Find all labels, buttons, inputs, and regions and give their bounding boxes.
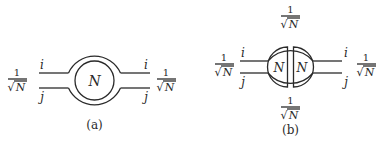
fraction-denominator: N	[288, 109, 299, 122]
sqrt-icon: √	[280, 109, 288, 122]
panel-b-right-index-i: i	[344, 46, 348, 60]
fraction-denominator: N	[222, 66, 233, 79]
fraction-numerator: 1	[163, 67, 169, 78]
sqrt-icon: √	[156, 81, 164, 94]
fraction-numerator: 1	[287, 4, 293, 15]
panel-a-left-index-i: i	[40, 58, 44, 72]
panel-a-caption: (a)	[86, 118, 103, 132]
sqrt-icon: √	[280, 18, 288, 31]
fraction-denominator: N	[15, 81, 26, 94]
panel-b-left-factor: 1 √ N	[214, 52, 234, 79]
panel-a-outer-loop	[69, 56, 121, 73]
fraction-numerator: 1	[287, 95, 293, 106]
panel-a-outer-loop-bottom	[69, 88, 121, 105]
panel-a-right-index-i: i	[144, 58, 148, 72]
panel-b-left-index-i: i	[241, 46, 245, 60]
fraction-numerator: 1	[221, 52, 227, 63]
sqrt-icon: √	[356, 66, 364, 79]
panel-b-top-factor: 1 √ N	[280, 4, 300, 31]
fraction-numerator: 1	[14, 67, 20, 78]
fraction-numerator: 1	[363, 52, 369, 63]
panel-a: N i j i j 1 √ N 1 √ N (a)	[7, 56, 176, 132]
panel-a-right-factor: 1 √ N	[156, 67, 176, 94]
panel-b: N N i j i j 1 √ N 1 √ N 1 √ N	[214, 4, 376, 137]
panel-a-left-index-j: j	[37, 90, 44, 104]
sqrt-icon: √	[7, 81, 15, 94]
panel-b-left-half-label: N	[273, 60, 286, 75]
panel-b-caption: (b)	[282, 123, 299, 137]
panel-b-right-half-label: N	[296, 60, 309, 75]
panel-b-left-index-j: j	[238, 75, 245, 89]
panel-a-right-index-j: j	[141, 90, 148, 104]
panel-b-right-index-j: j	[341, 75, 348, 89]
sqrt-icon: √	[214, 66, 222, 79]
fraction-denominator: N	[164, 81, 175, 94]
panel-a-center-label: N	[87, 73, 101, 89]
panel-b-right-factor: 1 √ N	[356, 52, 376, 79]
panel-b-bottom-factor: 1 √ N	[280, 95, 300, 122]
feynman-diagram-figure: N i j i j 1 √ N 1 √ N (a)	[0, 0, 383, 143]
fraction-denominator: N	[364, 66, 375, 79]
fraction-denominator: N	[288, 18, 299, 31]
panel-a-left-factor: 1 √ N	[7, 67, 27, 94]
